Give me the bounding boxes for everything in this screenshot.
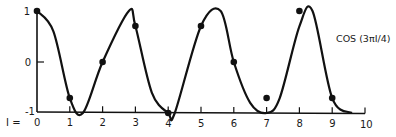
x-axis-label: I = bbox=[6, 117, 21, 128]
cosine-curve bbox=[37, 6, 352, 120]
sample-point bbox=[132, 23, 139, 30]
sample-point bbox=[296, 8, 303, 15]
x-tick-label: 6 bbox=[231, 118, 237, 129]
x-tick-label: 0 bbox=[34, 117, 40, 128]
x-tick-label: 7 bbox=[264, 118, 270, 129]
sample-point bbox=[34, 8, 41, 15]
y-tick-label-neg1: -1 bbox=[25, 106, 35, 117]
x-tick-label: 4 bbox=[165, 118, 171, 129]
series-label: COS (3πI/4) bbox=[336, 33, 390, 44]
sample-point bbox=[198, 23, 205, 30]
sample-point bbox=[263, 95, 270, 102]
sample-point bbox=[329, 95, 336, 102]
y-tick-label-0: 0 bbox=[25, 57, 31, 68]
x-tick-label: 3 bbox=[132, 117, 138, 128]
sample-point bbox=[99, 59, 106, 66]
y-tick-label-1: 1 bbox=[24, 6, 30, 17]
x-tick-label: 10 bbox=[360, 119, 373, 130]
sample-point bbox=[67, 95, 74, 102]
x-tick-label: 8 bbox=[296, 118, 302, 129]
curve bbox=[37, 6, 352, 120]
x-tick-label: 9 bbox=[329, 118, 335, 129]
sample-point bbox=[165, 110, 172, 117]
x-tick-label: 2 bbox=[100, 117, 106, 128]
x-tick-label: 1 bbox=[67, 117, 73, 128]
cosine-sample-chart: 01234567891010-1I =COS (3πI/4) bbox=[0, 0, 396, 137]
x-tick-label: 5 bbox=[198, 118, 204, 129]
sample-point bbox=[231, 59, 238, 66]
